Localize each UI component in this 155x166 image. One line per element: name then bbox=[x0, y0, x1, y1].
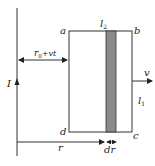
current-arrow-icon bbox=[15, 78, 20, 85]
loop-rectangle bbox=[69, 31, 132, 132]
strip-width-label: dr bbox=[104, 144, 116, 155]
side-length-label: l1 bbox=[138, 95, 145, 107]
velocity-label: v bbox=[144, 67, 150, 78]
corner-b-label: b bbox=[134, 25, 140, 36]
distance-label: r bbox=[58, 142, 64, 153]
corner-a-label: a bbox=[60, 25, 66, 36]
corner-d-label: d bbox=[60, 126, 66, 137]
shaded-strip bbox=[106, 31, 116, 132]
offset-label: r0+vt bbox=[34, 48, 57, 59]
top-length-label: l2 bbox=[100, 18, 107, 30]
corner-c-label: c bbox=[133, 130, 139, 141]
current-label: I bbox=[6, 78, 12, 89]
physics-diagram: I a b c d l2 l1 v r0+vt r dr bbox=[0, 0, 155, 166]
